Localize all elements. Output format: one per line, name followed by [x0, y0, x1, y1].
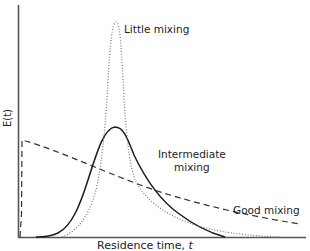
y-axis-label: E(t) — [2, 109, 13, 127]
x-axis-label: Residence time, t — [97, 239, 194, 251]
label-good-mixing: Good mixing — [233, 204, 300, 216]
label-intermediate-mixing-line1: Intermediate — [158, 148, 226, 160]
label-intermediate-mixing-line2: mixing — [174, 161, 210, 173]
rtd-chart: E(t) Residence time, t Little mixing Int… — [0, 0, 310, 251]
series-intermediate-mixing — [36, 127, 225, 237]
x-axis-label-main: Residence time, — [97, 239, 189, 251]
label-little-mixing: Little mixing — [124, 23, 189, 35]
x-axis-label-var: t — [189, 239, 194, 251]
